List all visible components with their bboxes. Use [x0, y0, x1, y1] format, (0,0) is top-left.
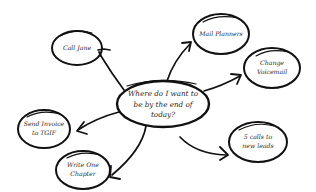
node-mail-planners: Mail Planners [194, 20, 248, 48]
write-chapter-line-2: Chapter [67, 170, 99, 179]
node-call-jane: Call Jane [54, 34, 100, 62]
center-node: Where do I want to be by the end of toda… [118, 83, 208, 127]
edge-calls-new-leads [180, 137, 228, 160]
edge-mail-planners [167, 42, 191, 81]
edge-write-chapter [110, 126, 146, 179]
call-jane-label: Call Jane [63, 44, 91, 53]
mind-map-canvas: Where do I want to be by the end of toda… [0, 0, 316, 192]
node-write-chapter: Write One Chapter [58, 154, 108, 186]
mail-planners-label: Mail Planners [199, 30, 243, 39]
node-calls-new-leads: 5 calls to new leads [231, 126, 285, 158]
edge-send-invoice [77, 112, 119, 134]
calls-new-leads-line-1: 5 calls to [242, 133, 273, 142]
edge-change-voicemail [204, 74, 241, 91]
center-line-2: be by the end of [128, 100, 198, 110]
center-line-3: today? [128, 110, 198, 120]
change-voicemail-line-1: Change [257, 59, 287, 68]
calls-new-leads-line-2: new leads [242, 142, 273, 151]
center-line-1: Where do I want to [128, 89, 198, 99]
change-voicemail-line-2: Voicemail [257, 68, 287, 77]
send-invoice-line-1: Send Invoice [24, 120, 65, 129]
write-chapter-line-1: Write One [67, 161, 99, 170]
node-change-voicemail: Change Voicemail [246, 52, 298, 84]
node-send-invoice: Send Invoice to TGIF [19, 113, 69, 145]
send-invoice-line-2: to TGIF [24, 129, 65, 138]
